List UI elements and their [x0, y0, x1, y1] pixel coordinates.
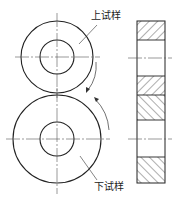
lower-section-bottom-hatch: [137, 157, 165, 183]
section-view: [128, 21, 172, 183]
upper-leader-line: [79, 25, 97, 44]
ring-on-ring-diagram: [0, 0, 176, 203]
lower-arrowhead-icon: [94, 97, 99, 102]
upper-specimen: [15, 13, 100, 98]
upper-specimen-label: 上试样: [91, 11, 121, 21]
lower-specimen: [6, 88, 110, 194]
upper-section-bottom-hatch: [137, 76, 165, 95]
lower-leader-line: [80, 156, 97, 180]
upper-section-top-hatch: [137, 21, 165, 40]
lower-rotation-arrow-icon: [95, 99, 109, 130]
lower-section-top-hatch: [137, 95, 165, 120]
lower-specimen-label: 下试样: [94, 182, 124, 192]
